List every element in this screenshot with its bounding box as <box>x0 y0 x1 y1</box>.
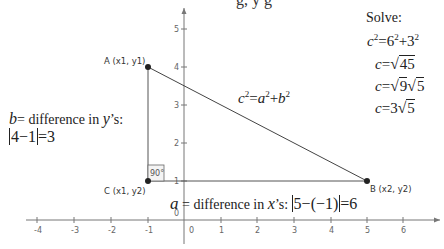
svg-text:-2: -2 <box>108 226 116 235</box>
point-b-label: B (x2, y2) <box>370 184 411 194</box>
svg-text:-1: -1 <box>145 226 153 235</box>
b-difference-calc: 4−1=3 <box>9 128 55 146</box>
point-c[interactable] <box>145 178 151 184</box>
point-a[interactable] <box>145 64 151 70</box>
svg-text:3: 3 <box>292 226 297 235</box>
right-angle-label: 90° <box>150 169 164 178</box>
svg-text:0: 0 <box>189 226 194 235</box>
svg-text:5: 5 <box>365 226 370 235</box>
point-c-label: C (x1, y2) <box>104 186 146 196</box>
svg-text:3: 3 <box>174 101 179 110</box>
pythagorean-diagram: -4 -3 -2 -1 0 1 2 3 4 5 6 1 2 3 4 5 0 <box>0 0 444 249</box>
x-tick-labels: -4 -3 -2 -1 0 1 2 3 4 5 6 <box>34 226 406 235</box>
radical-icon: √ <box>390 55 399 72</box>
pythagorean-formula: c2=a2+b2 <box>238 90 290 107</box>
cropped-heading-fragment: g, y g <box>236 0 272 9</box>
svg-text:2: 2 <box>255 226 260 235</box>
a-difference-label: a = difference in x’s: 5−(−1)=6 <box>170 194 357 214</box>
solve-step-4: c=3√5 <box>375 99 415 117</box>
svg-text:2: 2 <box>174 139 179 148</box>
svg-text:5: 5 <box>174 25 179 34</box>
solve-step-2: c=√45 <box>375 55 415 73</box>
hypotenuse-c-segment <box>148 67 367 181</box>
y-axis-arrow-icon <box>182 8 187 14</box>
svg-text:-3: -3 <box>71 226 79 235</box>
b-difference-label: b= difference in y’s: <box>9 110 123 128</box>
svg-text:-4: -4 <box>34 226 42 235</box>
solve-step-3: c=√9√5 <box>375 77 424 95</box>
svg-text:4: 4 <box>174 63 179 72</box>
radical-icon: √ <box>398 99 407 116</box>
y-tick-labels: 1 2 3 4 5 0 <box>174 25 179 218</box>
solve-step-1: c2=62+32 <box>367 33 419 50</box>
svg-text:6: 6 <box>401 226 406 235</box>
radical-icon: √ <box>407 77 416 94</box>
svg-text:4: 4 <box>329 226 334 235</box>
point-a-label: A (x1, y1) <box>104 56 145 66</box>
svg-text:1: 1 <box>219 226 224 235</box>
solve-title: Solve: <box>366 10 402 26</box>
x-axis-arrow-icon <box>434 218 440 223</box>
radical-icon: √ <box>390 77 399 94</box>
